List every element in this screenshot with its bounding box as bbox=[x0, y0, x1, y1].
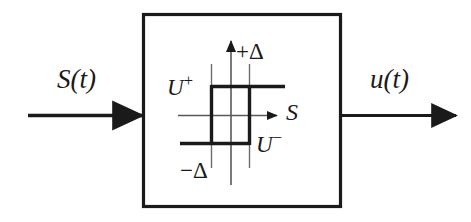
figure-canvas: S(t) u(t) S +Δ −Δ U+ U− bbox=[0, 0, 471, 222]
relay-block-diagram-svg bbox=[0, 0, 471, 222]
output-low-level-superscript: − bbox=[273, 128, 282, 147]
s-axis-label: S bbox=[286, 100, 298, 124]
input-signal-label: S(t) bbox=[57, 66, 96, 93]
output-high-level-base: U bbox=[167, 75, 184, 100]
output-low-level-base: U bbox=[256, 132, 273, 157]
output-high-level-label: U+ bbox=[167, 73, 193, 99]
output-high-level-superscript: + bbox=[184, 71, 193, 90]
negative-threshold-label: −Δ bbox=[180, 159, 208, 182]
output-signal-label: u(t) bbox=[370, 66, 409, 93]
positive-threshold-label: +Δ bbox=[236, 40, 264, 63]
output-low-level-label: U− bbox=[256, 130, 282, 156]
